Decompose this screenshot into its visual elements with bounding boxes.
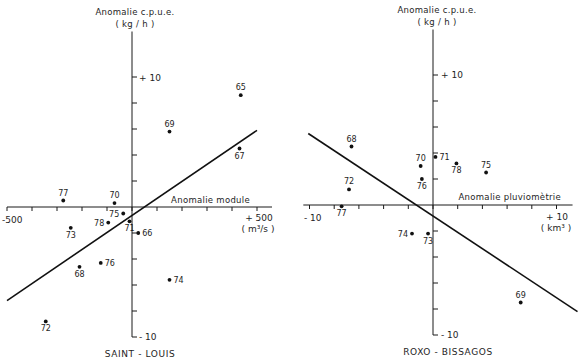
data-point-label: 77 (58, 189, 68, 198)
data-point (168, 278, 172, 282)
x-max-label: + 10 (546, 212, 568, 222)
x-axis-title: Anomalie module (171, 195, 250, 205)
data-point (434, 155, 438, 159)
data-point-label: 75 (109, 210, 119, 219)
data-point-label: 73 (66, 231, 76, 240)
y-max-label: + 10 (139, 73, 161, 83)
data-point-label: 75 (481, 161, 491, 170)
data-point-label: 72 (344, 177, 354, 186)
data-point-label: 68 (346, 135, 356, 144)
y-min-label: - 10 (441, 330, 459, 340)
x-axis-unit: ( km³ ) (541, 223, 571, 233)
y-min-label: - 10 (139, 332, 157, 342)
data-point (113, 201, 117, 205)
data-point (121, 212, 125, 216)
data-point-label: 74 (398, 230, 408, 239)
data-point (347, 188, 351, 192)
x-axis-unit: ( m³/s ) (242, 224, 275, 234)
data-point (519, 301, 523, 305)
data-point-label: 68 (74, 270, 84, 279)
data-point (106, 221, 110, 225)
data-point-label: 77 (337, 209, 347, 218)
data-point (136, 231, 140, 235)
data-point (61, 199, 65, 203)
data-point-label: 76 (105, 259, 115, 268)
data-point-label: 73 (423, 237, 433, 246)
data-point-label: 69 (164, 120, 174, 129)
data-point (426, 232, 430, 236)
data-point-label: 69 (516, 291, 526, 300)
data-point-label: 65 (236, 83, 246, 92)
data-point (44, 320, 48, 324)
data-point-label: 74 (174, 276, 184, 285)
x-min-label: -500 (2, 215, 23, 225)
data-point-label: 70 (109, 191, 119, 200)
y-axis-unit: ( kg / h ) (417, 17, 456, 27)
data-point (350, 145, 354, 149)
data-point-label: 72 (41, 324, 51, 333)
data-point (410, 232, 414, 236)
panel-saint-louis: Anomalie c.p.u.e. ( kg / h ) Anomalie mo… (2, 7, 274, 359)
data-point (99, 261, 103, 265)
data-point-label: 76 (417, 182, 427, 191)
data-point (238, 147, 242, 151)
y-axis-title: Anomalie c.p.u.e. (95, 7, 174, 17)
data-point-label: 71 (439, 153, 449, 162)
data-point-label: 70 (416, 154, 426, 163)
y-axis-title: Anomalie c.p.u.e. (397, 5, 476, 15)
x-axis-title: Anomalie pluviomètrie (458, 192, 561, 202)
y-max-label: + 10 (441, 70, 463, 80)
panel-roxo-bissagos: Anomalie c.p.u.e. ( kg / h ) Anomalie pl… (303, 5, 577, 357)
data-point (484, 171, 488, 175)
panel-caption: SAINT - LOUIS (105, 349, 175, 359)
figure: Anomalie c.p.u.e. ( kg / h ) Anomalie mo… (0, 0, 580, 360)
panel-caption: ROXO - BISSAGOS (403, 347, 493, 357)
data-point (78, 265, 82, 269)
data-point-label: 78 (451, 166, 461, 175)
data-point-label: 78 (94, 219, 104, 228)
data-point (69, 226, 73, 230)
data-point-label: 66 (142, 229, 152, 238)
data-point (455, 162, 459, 166)
data-point (340, 204, 344, 208)
data-point (419, 164, 423, 168)
data-point (239, 93, 243, 97)
data-point (128, 219, 132, 223)
data-point-label: 67 (234, 152, 244, 161)
data-point (420, 177, 424, 181)
x-min-label: - 10 (304, 213, 322, 223)
data-point (168, 130, 172, 134)
data-point-label: 71 (124, 224, 134, 233)
y-axis-unit: ( kg / h ) (115, 19, 154, 29)
x-max-label: + 500 (245, 213, 273, 223)
